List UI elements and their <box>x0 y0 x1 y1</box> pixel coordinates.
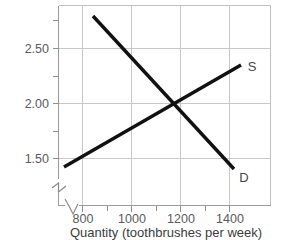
y-axis <box>52 6 66 206</box>
y-tick-label-250: 2.50 <box>25 42 49 56</box>
x-axis-title: Quantity (toothbrushes per week) <box>70 225 262 240</box>
x-tick-labels: 800 1000 1200 1400 <box>73 212 244 226</box>
x-tick-label-1200: 1200 <box>167 212 195 226</box>
supply-demand-chart: 2.50 2.00 1.50 800 1000 1200 1400 <box>0 0 284 240</box>
y-tick-label-150: 1.50 <box>25 152 49 166</box>
x-tick-label-800: 800 <box>73 212 94 226</box>
x-tick-label-1000: 1000 <box>118 212 146 226</box>
chart-canvas: 2.50 2.00 1.50 800 1000 1200 1400 <box>0 0 284 240</box>
y-tick-label-200: 2.00 <box>25 97 49 111</box>
x-tick-label-1400: 1400 <box>216 212 244 226</box>
data-series <box>64 16 241 169</box>
vertical-gridlines <box>83 6 230 206</box>
y-tick-labels: 2.50 2.00 1.50 <box>25 42 49 166</box>
demand-curve-label: D <box>239 170 248 185</box>
curve-labels: S D <box>239 59 256 185</box>
y-axis-break-icon <box>52 183 66 192</box>
supply-curve-label: S <box>248 59 257 74</box>
demand-curve-line <box>93 16 234 169</box>
